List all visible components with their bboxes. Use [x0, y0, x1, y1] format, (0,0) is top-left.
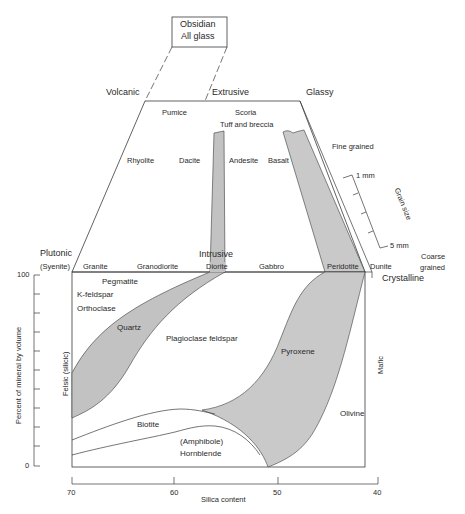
pyroxene-label: Pyroxene	[281, 348, 315, 356]
extrusive-label: Extrusive	[212, 88, 249, 97]
grain-5mm-label: 5 mm	[390, 242, 409, 250]
crystalline-label: Crystalline	[382, 274, 424, 283]
x-tick-70: 70	[67, 489, 75, 497]
x-tick-50: 50	[273, 489, 281, 497]
dunite-label: Dunite	[370, 263, 392, 271]
syenite-label: (Syenite)	[40, 263, 70, 271]
pumice-label: Pumice	[162, 109, 187, 117]
amphibole-label: (Amphibole)	[180, 438, 223, 446]
grained-label: grained	[420, 264, 445, 272]
dashed-line-left	[145, 47, 172, 101]
quartz-label: Quartz	[117, 324, 141, 332]
plagioclase-label: Plagioclase feldspar	[166, 335, 238, 343]
felsic-label: Felsic (silicic)	[62, 351, 70, 396]
y-axis	[34, 275, 40, 466]
scoria-label: Scoria	[235, 109, 256, 117]
olivine-label: Olivine	[340, 410, 364, 418]
basalt-label: Basalt	[268, 157, 289, 165]
y-axis-100: 100	[17, 271, 30, 279]
glassy-label: Glassy	[306, 88, 334, 97]
kfeldspar-label: K-feldspar	[77, 291, 113, 299]
obsidian-label: Obsidian	[180, 20, 216, 29]
biotite-label: Biotite	[137, 421, 159, 429]
y-axis-0: 0	[25, 462, 29, 470]
tuff-breccia-label: Tuff and breccia	[220, 121, 273, 129]
gabbro-label: Gabbro	[259, 263, 284, 271]
volcanic-label: Volcanic	[106, 88, 140, 97]
granite-label: Granite	[83, 263, 108, 271]
peridotite-label: Peridotite	[327, 263, 359, 271]
hornblende-label: Hornblende	[180, 450, 221, 458]
diorite-label: Diorite	[206, 263, 228, 271]
granodiorite-label: Granodiorite	[137, 263, 178, 271]
rhyolite-label: Rhyolite	[127, 157, 154, 165]
pegmatite-label: Pegmatite	[102, 278, 138, 286]
orthoclase-label: Orthoclase	[77, 305, 116, 313]
andesite-label: Andesite	[229, 157, 258, 165]
y-axis-title: Percent of mineral by volume	[15, 327, 23, 424]
all-glass-label: All glass	[181, 32, 215, 41]
x-axis-title: Silica content	[201, 496, 246, 504]
hornblende-curve	[72, 426, 260, 455]
x-axis	[72, 477, 378, 484]
coarse-label: Coarse	[421, 253, 445, 261]
fine-grained-label: Fine grained	[332, 143, 374, 151]
pyroxene-band	[202, 272, 365, 467]
x-tick-40: 40	[373, 489, 381, 497]
x-tick-60: 60	[170, 489, 178, 497]
intrusive-label: Intrusive	[199, 250, 233, 259]
dacite-label: Dacite	[179, 157, 200, 165]
plutonic-label: Plutonic	[40, 249, 72, 258]
mafic-label: Mafic	[377, 356, 385, 374]
grain-1mm-label: 1 mm	[356, 172, 375, 180]
